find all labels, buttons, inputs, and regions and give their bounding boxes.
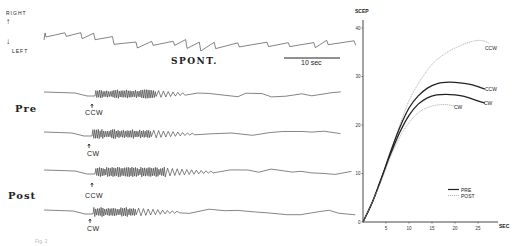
y-tick-label: 40 (355, 26, 361, 31)
curve-label-post-cw: CW (454, 104, 462, 110)
x-axis-label: SEC (499, 223, 509, 229)
stimulus-label-post-cw: CW (87, 225, 100, 232)
direction-right-label: RIGHT (6, 10, 27, 16)
y-axis-label: SCEP (355, 8, 369, 14)
stimulus-onset-arrow-icon (88, 144, 90, 148)
spontaneous-nystagmus-trace (44, 33, 356, 51)
x-tick-label: 20 (452, 226, 458, 231)
spont-label: SPONT. (171, 56, 218, 66)
curve-label-pre-ccw: CCW (485, 86, 497, 92)
y-tick-label: 10 (355, 171, 361, 176)
series-pre-cw (363, 94, 485, 222)
curve-label-pre-cw: CW (484, 100, 492, 106)
x-tick-label: 5 (385, 226, 388, 231)
arrow-up-icon: ↑ (6, 18, 10, 26)
stimulus-onset-arrow-icon (89, 219, 91, 223)
legend-post-label: POST (461, 193, 475, 199)
pre-ccw-trace (44, 90, 341, 99)
pre-cw-trace (44, 129, 341, 138)
stimulus-label-pre-cw: CW (87, 150, 100, 157)
post-ccw-trace (44, 167, 352, 177)
scep-chart: 010203040510152025 (355, 20, 498, 231)
stimulus-onset-arrow-icon (91, 104, 93, 108)
post-group-label: Post (8, 190, 36, 201)
y-tick-label: 20 (355, 123, 361, 128)
series-post-cw (363, 105, 455, 222)
figure-canvas: 010203040510152025 (0, 0, 525, 246)
pre-group-label: Pre (15, 103, 37, 114)
scale-bar-label: 10 sec (301, 59, 322, 66)
figure-caption-fragment: Fig. 2 (35, 238, 48, 244)
stimulus-label-pre-ccw: CCW (85, 109, 103, 116)
direction-left-label: LEFT (12, 48, 28, 54)
x-tick-label: 25 (475, 226, 481, 231)
post-cw-trace (44, 207, 355, 216)
x-tick-label: 15 (429, 226, 435, 231)
series-pre-ccw (363, 82, 485, 222)
stimulus-onset-arrow-icon (91, 183, 93, 187)
x-tick-label: 10 (406, 226, 412, 231)
y-tick-label: 0 (358, 220, 361, 225)
arrow-down-icon: ↓ (6, 38, 10, 46)
stimulus-label-post-ccw: CCW (85, 192, 103, 199)
curve-label-post-ccw: CCW (485, 45, 497, 51)
y-tick-label: 30 (355, 74, 361, 79)
